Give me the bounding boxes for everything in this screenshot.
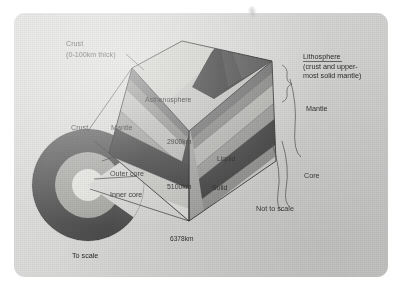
label-depth-5100: 5100km <box>167 183 192 190</box>
label-radius-6378: 6378km <box>170 235 194 242</box>
screenshot-root: Crust (0-100km thick) Asthenosphere Lith… <box>0 0 406 293</box>
label-lithosphere: Lithosphere <box>303 52 341 61</box>
scanned-photo-card: Crust (0-100km thick) Asthenosphere Lith… <box>14 13 388 277</box>
label-crust-top-detail: (0-100km thick) <box>66 50 116 59</box>
label-core-right: Core <box>304 171 320 180</box>
label-depth-2900: 2900km <box>167 138 192 145</box>
label-liquid: Liquid <box>217 155 236 163</box>
label-inner-core: Inner core <box>110 190 142 199</box>
brace-lithosphere <box>282 65 292 102</box>
label-mantle-left: Mantle <box>111 123 133 132</box>
label-asthenosphere: Asthenosphere <box>145 96 192 104</box>
label-solid: Solid <box>212 184 227 191</box>
label-crust-top: Crust <box>66 39 83 48</box>
label-mantle-right: Mantle <box>306 104 328 113</box>
right-braces <box>272 65 301 211</box>
caption-to-scale: To scale <box>72 251 98 260</box>
label-lithosphere-detail-2: most solid mantle) <box>303 71 361 80</box>
brace-core <box>282 141 290 207</box>
label-outer-core: Outer core <box>110 169 144 178</box>
label-crust-left: Crust <box>71 123 88 132</box>
label-lithosphere-detail-1: (crust and upper- <box>303 62 358 71</box>
caption-not-to-scale: Not to scale <box>256 204 294 213</box>
brace-mantle <box>290 79 301 157</box>
earth-structure-diagram: Crust (0-100km thick) Asthenosphere Lith… <box>14 13 388 277</box>
